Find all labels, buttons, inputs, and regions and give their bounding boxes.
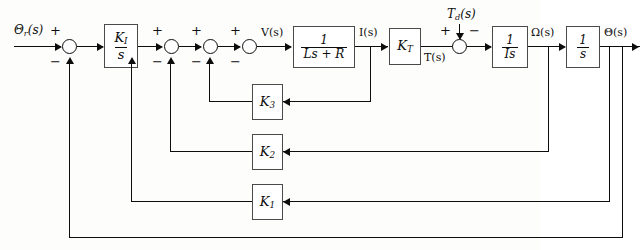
wire-input — [14, 46, 61, 47]
block-electrical-plant: 1 Ls + R — [293, 26, 355, 68]
current-signal-label: I(s) — [359, 27, 378, 38]
arrowhead-summer2-input — [156, 43, 163, 51]
summer-disturbance-minus-sign: − — [469, 24, 480, 37]
summer-outer-loop-plus-sign: + — [50, 24, 61, 37]
block-integrator: 1 s — [566, 26, 600, 68]
arrowhead-input — [55, 43, 62, 51]
wire-k2-tap-vertical — [548, 46, 549, 152]
summer-k3-loop-plus-sign: + — [230, 24, 241, 37]
summer-k1-loop-plus-sign: + — [152, 24, 163, 37]
wire-k1-input — [283, 201, 610, 202]
wire-k1-output — [131, 201, 252, 202]
wire-k3-output — [209, 101, 252, 102]
block-inertia: 1 Is — [492, 26, 528, 68]
arrowhead-summer3-feedback — [167, 57, 175, 64]
arrowhead-summer4-input — [234, 43, 241, 51]
disturbance-signal-label: Td(s) — [447, 8, 476, 21]
output-signal-label: Θ(s) — [604, 27, 627, 38]
block-torque-constant: KT — [389, 28, 421, 65]
wire-outer-feedback-bottom — [69, 237, 623, 238]
block-current-feedback-gain: K3 — [252, 84, 283, 120]
summer-k2-loop-plus-sign: + — [191, 24, 202, 37]
summer-k3-loop-minus-sign: − — [230, 55, 241, 68]
summer-disturbance — [452, 39, 467, 54]
wire-k1-tap-vertical — [609, 46, 610, 202]
torque-signal-label: T(s) — [424, 52, 446, 63]
block-position-feedback-gain: K1 — [252, 184, 283, 220]
arrowhead-output — [632, 43, 639, 51]
summer-k2-loop — [203, 39, 218, 54]
wire-k2-to-summer3 — [170, 60, 171, 152]
arrowhead-kt-input — [381, 43, 388, 51]
summer-k2-loop-minus-sign: − — [191, 55, 202, 68]
arrowhead-ki-input — [97, 43, 104, 51]
arrowhead-k2-input — [283, 148, 290, 156]
arrowhead-summer1-feedback — [66, 57, 74, 64]
wire-k3-input — [283, 101, 371, 102]
arrowhead-k3-input — [283, 98, 290, 106]
summer-k3-loop — [242, 39, 257, 54]
wire-outer-tap-vertical — [622, 46, 623, 238]
arrowhead-plant-input — [285, 43, 292, 51]
block-velocity-feedback-gain: K2 — [252, 134, 283, 170]
wire-k2-output — [170, 151, 252, 152]
summer-outer-loop-minus-sign: − — [50, 55, 61, 68]
wire-k1-to-summer2 — [131, 60, 132, 202]
arrowhead-inertia-input — [485, 43, 492, 51]
summer-outer-loop — [62, 39, 77, 54]
summer-k1-loop-minus-sign: − — [152, 55, 163, 68]
wire-outer-to-summer1 — [69, 60, 70, 238]
arrowhead-summer2-feedback — [128, 57, 136, 64]
arrowhead-k1-input — [283, 198, 290, 206]
arrowhead-summer4-feedback — [206, 57, 214, 64]
arrowhead-integrator-input — [559, 43, 566, 51]
summer-disturbance-plus-sign: + — [440, 24, 451, 37]
speed-signal-label: Ω(s) — [531, 27, 554, 38]
summer-k1-loop — [164, 39, 179, 54]
reference-signal-label: Θr(s) — [14, 24, 43, 37]
wire-k2-input — [283, 151, 549, 152]
voltage-signal-label: V(s) — [261, 27, 283, 38]
wire-k3-tap-vertical — [370, 46, 371, 102]
wire-k3-to-summer4 — [209, 60, 210, 102]
arrowhead-summer3-input — [195, 43, 202, 51]
